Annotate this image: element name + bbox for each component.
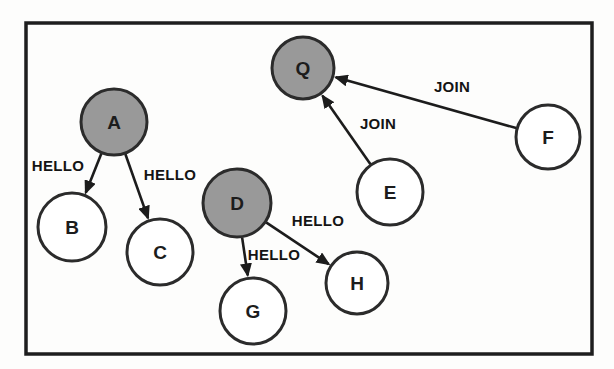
- node-label-D: D: [230, 193, 244, 214]
- edge-label-F-Q: JOIN: [434, 78, 470, 95]
- network-diagram: HELLOHELLOHELLOHELLOJOINJOINABCDEFGHQ: [0, 0, 614, 369]
- edge-A-B: [86, 154, 102, 193]
- node-label-Q: Q: [296, 58, 311, 79]
- node-label-H: H: [350, 273, 364, 294]
- node-label-A: A: [107, 112, 121, 133]
- edge-label-D-H: HELLO: [292, 212, 344, 229]
- edge-label-A-B: HELLO: [32, 157, 84, 174]
- node-label-C: C: [153, 242, 167, 263]
- edge-label-A-C: HELLO: [144, 166, 196, 183]
- scanned-diagram-page: HELLOHELLOHELLOHELLOJOINJOINABCDEFGHQ: [0, 0, 614, 369]
- node-label-B: B: [65, 217, 79, 238]
- node-label-E: E: [384, 182, 397, 203]
- node-label-F: F: [542, 127, 554, 148]
- edge-A-C: [125, 154, 148, 218]
- node-label-G: G: [246, 301, 261, 322]
- edge-label-D-G: HELLO: [248, 246, 300, 263]
- edge-label-E-Q: JOIN: [360, 115, 396, 132]
